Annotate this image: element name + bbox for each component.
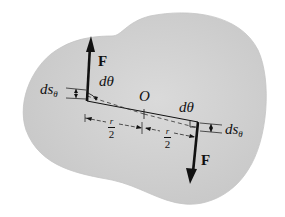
- force-label-bottom: F: [201, 153, 210, 168]
- displacement-left-main: ds: [40, 81, 53, 97]
- force-label-top: F: [98, 54, 107, 69]
- displacement-left-subscript: θ: [53, 89, 57, 99]
- angle-label-right: dθ: [179, 100, 194, 115]
- angle-label-left: dθ: [99, 74, 114, 89]
- displacement-label-right: dsθ: [225, 122, 243, 139]
- half-radius-label-left: r 2: [108, 117, 115, 140]
- displacement-label-left: dsθ: [40, 82, 58, 99]
- half-radius-left-denominator: 2: [109, 129, 115, 140]
- half-radius-label-right: r 2: [164, 127, 171, 150]
- rigid-body-shape: [23, 13, 266, 204]
- displacement-right-main: ds: [225, 121, 238, 137]
- half-radius-right-numerator: r: [166, 127, 170, 136]
- half-radius-left-numerator: r: [110, 117, 114, 126]
- center-point-label: O: [139, 89, 150, 104]
- half-radius-right-denominator: 2: [165, 139, 171, 150]
- couple-diagram: [0, 0, 285, 217]
- displacement-right-subscript: θ: [238, 129, 242, 139]
